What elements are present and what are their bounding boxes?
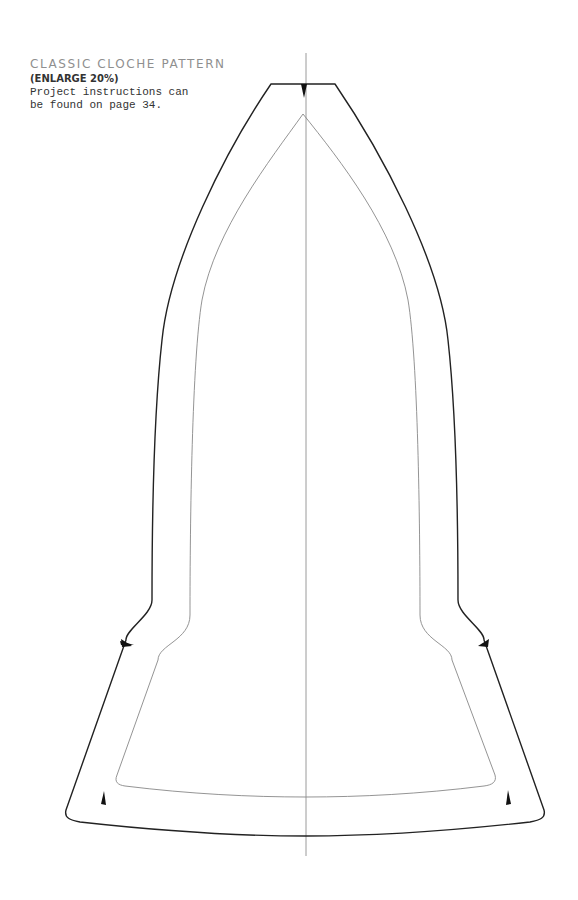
cloche-pattern-drawing [0,0,578,900]
bottom-right-notch-icon [506,790,511,805]
bottom-left-notch-icon [101,791,106,805]
outer-cut-line [66,84,545,836]
